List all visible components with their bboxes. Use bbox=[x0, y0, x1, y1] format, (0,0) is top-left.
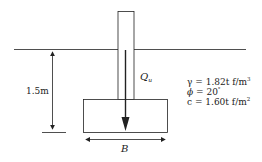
footing-diagram: 1.5m Qu B γ = 1.82t f/m3 ϕ = 20° c = 1.6… bbox=[0, 0, 262, 162]
width-label: B bbox=[121, 143, 128, 154]
load-label: Qu bbox=[140, 71, 152, 83]
load-symbol: Q bbox=[140, 71, 148, 82]
depth-label: 1.5m bbox=[26, 86, 49, 96]
soil-property-cohesion: c = 1.60t f/m2 bbox=[187, 94, 250, 107]
load-subscript: u bbox=[148, 76, 152, 83]
